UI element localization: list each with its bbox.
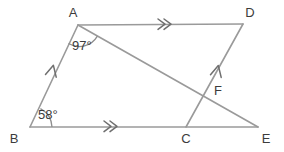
segment-AD <box>78 24 243 25</box>
geometry-canvas: A B C D E F 97° 58° <box>0 0 284 152</box>
vertex-label-C: C <box>181 131 190 146</box>
angle-label-B: 58° <box>38 107 58 122</box>
angle-label-A: 97° <box>72 38 92 53</box>
segment-AE <box>78 25 258 127</box>
vertex-label-A: A <box>69 5 78 20</box>
vertex-label-D: D <box>245 5 254 20</box>
vertex-label-F: F <box>214 83 222 98</box>
vertex-label-B: B <box>10 131 19 146</box>
vertex-label-E: E <box>262 131 271 146</box>
segment-CD <box>186 24 243 127</box>
geometry-figure: A B C D E F 97° 58° <box>0 0 284 152</box>
